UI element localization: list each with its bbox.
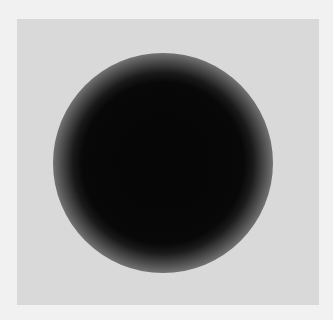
dark-spot-gradient (53, 53, 273, 273)
image-frame (17, 19, 319, 305)
